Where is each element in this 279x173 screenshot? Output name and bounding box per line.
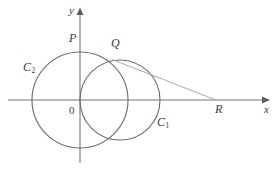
circle-label-c1-letter: C <box>157 115 165 129</box>
point-label-q: Q <box>111 37 120 49</box>
x-axis-label: x <box>264 104 269 115</box>
y-axis-label: y <box>69 5 74 16</box>
circle-label-c1: C1 <box>157 116 169 128</box>
origin-label: 0 <box>69 105 75 116</box>
geometry-figure: x y 0 P Q R C2 C1 <box>0 0 279 173</box>
circle-label-c1-subscript: 1 <box>166 121 170 130</box>
x-axis <box>8 96 270 103</box>
point-label-r: R <box>215 103 222 115</box>
point-label-p: P <box>69 32 76 44</box>
circle-label-c2-letter: C <box>23 60 31 74</box>
circle-label-c2: C2 <box>23 61 35 73</box>
figure-canvas <box>0 0 279 173</box>
circle-label-c2-subscript: 2 <box>32 66 36 75</box>
